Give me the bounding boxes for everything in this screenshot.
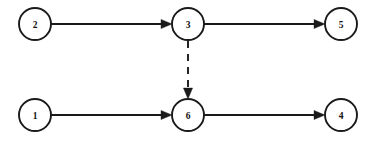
node-label-3: 3 — [186, 20, 191, 30]
node-label-5: 5 — [339, 20, 344, 30]
node-label-1: 1 — [33, 111, 38, 121]
node-label-6: 6 — [186, 111, 191, 121]
arrowhead-6-to-4 — [314, 110, 325, 119]
diagram-canvas: 235164 — [0, 0, 373, 142]
node-5[interactable]: 5 — [325, 8, 357, 40]
arrowhead-2-to-3 — [161, 19, 172, 28]
node-3[interactable]: 3 — [172, 8, 204, 40]
node-2[interactable]: 2 — [19, 8, 51, 40]
arrowhead-1-to-6 — [161, 110, 172, 119]
arrowhead-3-to-5 — [314, 19, 325, 28]
node-label-2: 2 — [33, 20, 38, 30]
node-1[interactable]: 1 — [19, 99, 51, 131]
node-label-4: 4 — [339, 111, 344, 121]
node-6[interactable]: 6 — [172, 99, 204, 131]
graph-svg: 235164 — [0, 0, 373, 142]
arrowhead-3-to-6 — [183, 88, 192, 99]
node-4[interactable]: 4 — [325, 99, 357, 131]
